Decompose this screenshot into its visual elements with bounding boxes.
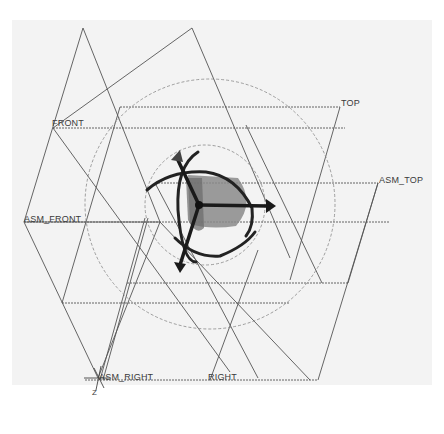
label-asm-top[interactable]: ASM_TOP <box>379 176 423 185</box>
label-right[interactable]: RIGHT <box>208 373 237 382</box>
asm-right-plane[interactable] <box>24 218 390 380</box>
axis-z-label: Z <box>92 389 97 397</box>
label-front[interactable]: FRONT <box>52 119 84 128</box>
label-asm-front[interactable]: ASM_FRONT <box>24 215 81 224</box>
arrow-x-icon[interactable] <box>266 199 276 213</box>
arrow-y-icon[interactable] <box>171 150 183 162</box>
label-asm-right[interactable]: ASM_RIGHT <box>99 373 153 382</box>
arrow-z-icon[interactable] <box>174 262 186 273</box>
label-top[interactable]: TOP <box>341 99 360 108</box>
